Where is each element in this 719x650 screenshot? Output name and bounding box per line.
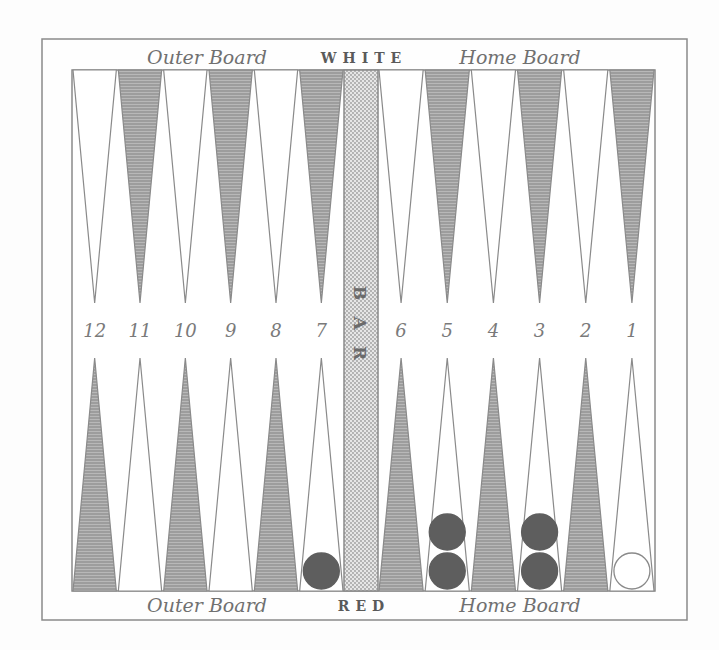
point-number-6: 6 bbox=[395, 320, 406, 341]
point-number-8: 8 bbox=[270, 320, 281, 341]
bar-letter-r: R bbox=[350, 346, 370, 361]
top-outer-board-label: Outer Board bbox=[147, 46, 267, 68]
top-side-label-white: WHITE bbox=[320, 50, 408, 66]
point-number-4: 4 bbox=[487, 320, 499, 341]
bottom-outer-board-label: Outer Board bbox=[147, 594, 267, 616]
point-number-11: 11 bbox=[129, 320, 152, 341]
bottom-home-board-label: Home Board bbox=[458, 594, 580, 616]
bar-label: B A R bbox=[350, 286, 370, 361]
backgammon-board: Outer Board WHITE Home Board Outer Board… bbox=[0, 0, 719, 650]
point-number-9: 9 bbox=[225, 320, 236, 341]
checker-light-point-1[interactable] bbox=[614, 553, 650, 589]
bar-letter-b: B bbox=[350, 286, 370, 300]
bar-letter-a: A bbox=[350, 315, 370, 330]
checker-dark-point-7[interactable] bbox=[303, 553, 339, 589]
checker-dark-point-3[interactable] bbox=[522, 514, 558, 550]
point-number-5: 5 bbox=[442, 320, 453, 341]
point-number-10: 10 bbox=[174, 320, 197, 341]
bar[interactable] bbox=[344, 70, 378, 591]
bottom-side-label-red: RED bbox=[338, 598, 390, 614]
point-number-1: 1 bbox=[626, 320, 637, 341]
checker-dark-point-3[interactable] bbox=[522, 553, 558, 589]
checker-dark-point-5[interactable] bbox=[429, 553, 465, 589]
point-number-12: 12 bbox=[83, 320, 106, 341]
point-number-2: 2 bbox=[579, 320, 591, 341]
checker-dark-point-5[interactable] bbox=[429, 514, 465, 550]
point-number-3: 3 bbox=[534, 320, 545, 341]
top-home-board-label: Home Board bbox=[458, 46, 580, 68]
point-number-7: 7 bbox=[316, 320, 328, 341]
